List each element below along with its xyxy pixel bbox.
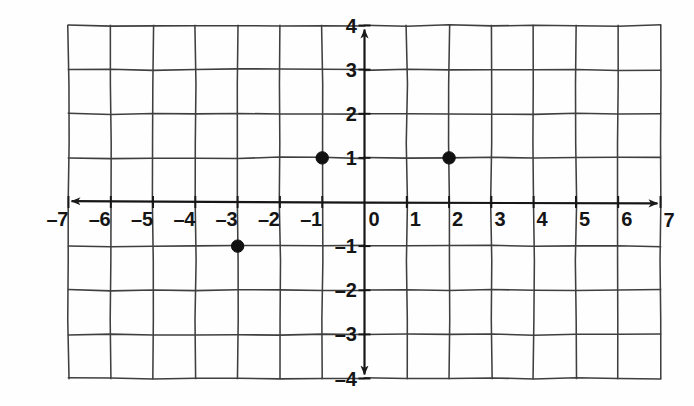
y-axis-tick-label: 1	[346, 148, 357, 168]
x-axis-positive-ray	[365, 203, 658, 204]
x-axis-tick-label: –5	[131, 209, 153, 229]
grid-line-horizontal	[365, 245, 661, 246]
plotted-point	[231, 240, 243, 252]
y-axis-tick-label: 3	[346, 60, 357, 80]
x-axis-tick-label: –7	[47, 209, 69, 229]
y-axis-tick-label: –3	[335, 324, 357, 344]
grid-line-horizontal	[365, 25, 661, 27]
grid-line-horizontal	[365, 157, 661, 158]
coordinate-plane-figure: –7–6–5–4–3–2–101234567 4321–1–2–3–4	[0, 0, 694, 406]
grid-line-horizontal	[365, 290, 661, 291]
y-axis-tick-label: –1	[335, 236, 357, 256]
grid-line-horizontal	[365, 113, 661, 114]
y-axis-tick-label: –2	[335, 280, 357, 300]
plotted-point	[316, 152, 328, 164]
grid-line-horizontal	[69, 113, 365, 114]
axis-lines	[72, 30, 658, 375]
y-axis-tick-label: 2	[346, 104, 357, 124]
y-axis-tick-label: –4	[335, 369, 357, 389]
x-axis-tick-label: –1	[300, 209, 322, 229]
y-axis-tick-label: 4	[346, 16, 357, 36]
x-axis-negative-ray	[72, 201, 365, 202]
x-axis-tick-label: 1	[410, 209, 421, 229]
grid-line-horizontal	[365, 334, 661, 335]
x-axis-tick-label: –3	[216, 209, 238, 229]
x-axis-tick-label: –4	[173, 209, 195, 229]
grid-line-horizontal	[69, 289, 365, 290]
grid-line-horizontal	[69, 245, 365, 246]
grid-line-horizontal	[69, 69, 365, 71]
x-axis-tick-label: 6	[621, 209, 632, 229]
x-axis-tick-label: –6	[89, 209, 111, 229]
grid-line-horizontal	[69, 25, 365, 26]
grid-line-horizontal	[69, 378, 365, 379]
x-axis-tick-label: 7	[664, 210, 675, 230]
x-axis-tick-label: 4	[537, 209, 548, 229]
grid-line-horizontal	[365, 378, 661, 379]
plotted-point	[443, 152, 455, 164]
x-axis-tick-label: 5	[579, 209, 590, 229]
x-axis-tick-label: –2	[258, 209, 280, 229]
x-axis-tick-label: 3	[494, 209, 505, 229]
grid-line-horizontal	[69, 334, 365, 335]
x-axis-tick-label: 0	[369, 209, 380, 229]
x-axis-tick-label: 2	[452, 209, 463, 229]
grid-line-horizontal	[365, 69, 661, 70]
